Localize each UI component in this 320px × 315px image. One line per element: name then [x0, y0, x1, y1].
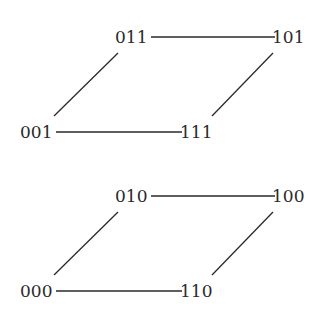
node-111: 111	[180, 122, 212, 142]
upper-face: 011 101 001 111	[20, 27, 304, 142]
node-001: 001	[20, 122, 52, 142]
hypercube-diagram: 011 101 001 111 010 100 000 110	[0, 0, 320, 315]
node-000: 000	[20, 281, 52, 301]
edge-011-001	[54, 53, 118, 116]
edge-101-111	[212, 53, 273, 116]
node-101: 101	[272, 27, 304, 47]
node-100: 100	[272, 186, 304, 206]
lower-face: 010 100 000 110	[20, 186, 304, 301]
node-110: 110	[180, 281, 212, 301]
edge-100-110	[212, 212, 273, 275]
node-011: 011	[115, 27, 147, 47]
node-010: 010	[115, 186, 147, 206]
edge-010-000	[54, 212, 118, 275]
